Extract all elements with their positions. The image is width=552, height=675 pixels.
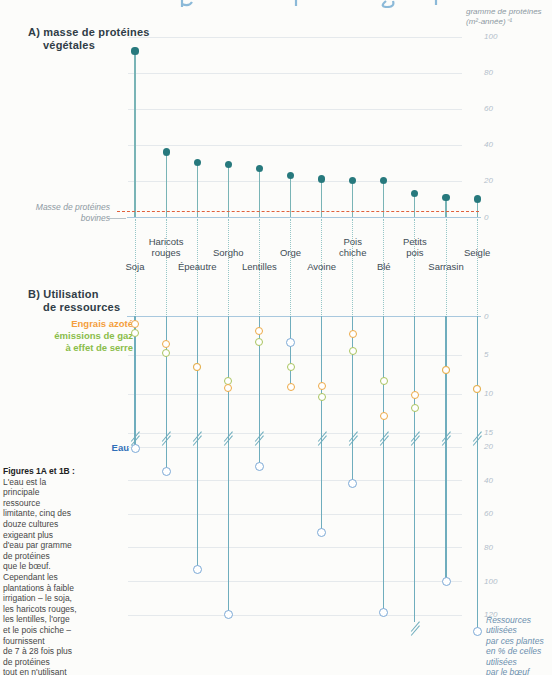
protein-dot <box>380 177 387 184</box>
ghg-circle <box>380 377 388 385</box>
ghg-circle <box>162 349 170 357</box>
grid-line <box>128 145 462 146</box>
category-label: Épeautre <box>166 261 228 272</box>
resource-column-line <box>228 316 229 615</box>
tick-label: 20 <box>484 176 493 185</box>
protein-dot <box>194 159 201 166</box>
water-circle <box>348 479 357 488</box>
protein-dot <box>225 161 232 168</box>
tick-label: 0 <box>484 312 488 321</box>
resource-column-line <box>414 316 415 622</box>
resource-column-line <box>290 316 291 387</box>
fertilizer-circle <box>193 363 201 371</box>
category-label: Avoine <box>291 261 353 272</box>
axis-line <box>127 217 481 218</box>
axis-line <box>127 316 481 317</box>
tick-label: 10 <box>484 389 493 398</box>
grid-line <box>128 37 462 38</box>
protein-stem <box>197 163 198 217</box>
grid-line <box>128 581 462 582</box>
category-label: Sorgho <box>197 247 259 258</box>
tick-label: 100 <box>484 577 497 586</box>
water-circle <box>131 444 140 453</box>
bovine-reference-line <box>117 211 479 212</box>
protein-stem <box>228 165 229 217</box>
tick-label: 5 <box>484 350 488 359</box>
fertilizer-circle <box>411 391 419 399</box>
resource-column-line <box>321 316 322 532</box>
protein-dot <box>318 175 325 182</box>
resource-column-line <box>383 316 384 613</box>
ghg-circle <box>349 347 357 355</box>
fertilizer-circle <box>224 384 232 392</box>
tick-label: 80 <box>484 543 493 552</box>
fertilizer-circle <box>162 340 170 348</box>
resource-column-line <box>477 316 478 631</box>
fertilizer-circle <box>287 383 295 391</box>
category-label: Lentilles <box>228 261 290 272</box>
water-circle <box>379 608 388 617</box>
protein-dot <box>287 172 294 179</box>
fertilizer-circle <box>349 330 357 338</box>
protein-stem <box>414 194 415 217</box>
grid-line <box>128 181 462 182</box>
water-circle <box>193 565 202 574</box>
ghg-circle <box>131 329 139 337</box>
resource-column-line <box>352 316 353 484</box>
category-label: Seigle <box>446 247 508 258</box>
protein-dot <box>256 165 263 172</box>
ghg-circle <box>411 404 419 412</box>
water-circle <box>255 462 264 471</box>
tick-label: 100 <box>484 32 497 41</box>
protein-stem <box>259 168 260 217</box>
tick-label: 20 <box>484 442 493 451</box>
water-circle <box>286 338 295 347</box>
protein-dot <box>474 195 481 202</box>
grid-line <box>128 433 462 434</box>
category-label: Petits pois <box>384 236 446 258</box>
infographic-canvas: gramme de protéines (m²-année)⁻¹ A) mass… <box>0 0 552 675</box>
tick-label: 40 <box>484 476 493 485</box>
resource-column-line <box>445 316 446 581</box>
grid-line <box>128 73 462 74</box>
tick-label: 40 <box>484 140 493 149</box>
protein-stem <box>134 51 135 217</box>
category-label: Soja <box>104 261 166 272</box>
fertilizer-circle <box>318 382 326 390</box>
water-circle <box>442 577 451 586</box>
tick-label: 60 <box>484 104 493 113</box>
category-label: Haricots rouges <box>135 236 197 258</box>
water-circle <box>473 627 482 636</box>
tick-label: 60 <box>484 509 493 518</box>
protein-dot <box>442 194 449 201</box>
tick-label: 80 <box>484 68 493 77</box>
fertilizer-circle <box>442 366 450 374</box>
ghg-circle <box>255 338 263 346</box>
fertilizer-circle <box>255 327 263 335</box>
protein-dot <box>349 177 356 184</box>
water-circle <box>224 610 233 619</box>
protein-dot <box>411 190 418 197</box>
grid-line <box>128 447 462 448</box>
grid-line <box>128 514 462 515</box>
category-label: Sarrasin <box>415 261 477 272</box>
protein-stem <box>166 152 167 217</box>
grid-line <box>128 355 462 356</box>
chart-layer: 020406080100SojaHaricots rougesÉpeautreS… <box>0 0 552 675</box>
category-label: Pois chiche <box>322 236 384 258</box>
tick-label: 15 <box>484 428 493 437</box>
fertilizer-circle <box>380 412 388 420</box>
fertilizer-circle <box>473 385 481 393</box>
water-circle <box>317 528 326 537</box>
water-circle <box>162 467 171 476</box>
protein-dot <box>163 148 170 155</box>
ghg-circle <box>318 393 326 401</box>
category-label: Orge <box>260 247 322 258</box>
grid-line <box>128 109 462 110</box>
tick-label: 0 <box>484 213 488 222</box>
ghg-circle <box>287 363 295 371</box>
reference-pointer <box>109 218 126 219</box>
category-label: Blé <box>353 261 415 272</box>
fertilizer-circle <box>131 320 139 328</box>
protein-dot <box>131 47 138 54</box>
